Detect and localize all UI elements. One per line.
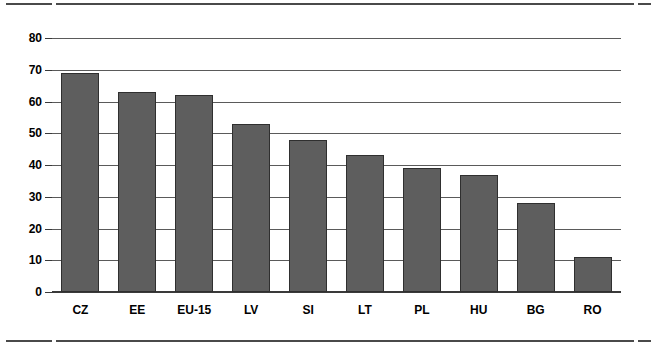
y-axis-label-10: 10	[29, 254, 42, 266]
y-axis-label-30: 30	[29, 191, 42, 203]
y-tick-50	[45, 133, 52, 134]
x-axis-label-hu: HU	[470, 304, 487, 316]
x-axis-label-bg: BG	[527, 304, 545, 316]
x-axis-label-cz: CZ	[72, 304, 88, 316]
y-tick-40	[45, 165, 52, 166]
y-axis-label-20: 20	[29, 223, 42, 235]
x-axis-label-ee: EE	[129, 304, 145, 316]
y-tick-20	[45, 229, 52, 230]
y-tick-60	[45, 102, 52, 103]
bottom-rule-right	[638, 340, 651, 342]
bar-chart-figure: 01020304050607080 CZEEEU-15LVSILTPLHUBGR…	[0, 0, 651, 352]
bottom-rule-left	[6, 340, 52, 342]
x-axis-label-si: SI	[302, 304, 313, 316]
bar-pl	[403, 168, 441, 292]
top-rule-right	[638, 3, 651, 5]
y-axis-label-40: 40	[29, 159, 42, 171]
bottom-rule-main	[56, 340, 634, 342]
y-tick-10	[45, 260, 52, 261]
bar-cz	[61, 73, 99, 292]
gridline-70	[52, 70, 621, 71]
x-axis-label-pl: PL	[414, 304, 429, 316]
y-axis-label-60: 60	[29, 96, 42, 108]
y-tick-30	[45, 197, 52, 198]
y-axis-label-0: 0	[35, 286, 42, 298]
bar-si	[289, 140, 327, 292]
bar-lv	[232, 124, 270, 292]
bar-ro	[574, 257, 612, 292]
gridline-80	[52, 38, 621, 39]
x-axis-label-ro: RO	[584, 304, 602, 316]
y-axis-label-70: 70	[29, 64, 42, 76]
bar-hu	[460, 175, 498, 292]
x-axis-label-lt: LT	[358, 304, 372, 316]
top-rule-main	[56, 3, 634, 5]
bar-ee	[118, 92, 156, 292]
y-axis-label-50: 50	[29, 127, 42, 139]
bar-bg	[517, 203, 555, 292]
x-axis-label-eu-15: EU-15	[177, 304, 211, 316]
top-rule-left	[6, 3, 52, 5]
x-axis-label-lv: LV	[244, 304, 258, 316]
y-axis-label-80: 80	[29, 32, 42, 44]
y-tick-80	[45, 38, 52, 39]
plot-area: 01020304050607080 CZEEEU-15LVSILTPLHUBGR…	[52, 38, 621, 292]
bar-lt	[346, 155, 384, 292]
bar-eu-15	[175, 95, 213, 292]
y-tick-0	[45, 292, 52, 293]
y-tick-70	[45, 70, 52, 71]
